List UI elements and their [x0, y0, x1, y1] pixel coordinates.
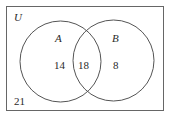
- venn-diagram: U A B 14 18 8 21: [0, 0, 169, 116]
- outside-count: 21: [14, 95, 25, 107]
- b-only-count: 8: [113, 59, 119, 71]
- set-a-label: A: [54, 32, 62, 44]
- universe-label: U: [14, 11, 23, 23]
- a-only-count: 14: [54, 59, 66, 71]
- set-b-label: B: [112, 32, 119, 44]
- intersection-count: 18: [78, 59, 90, 71]
